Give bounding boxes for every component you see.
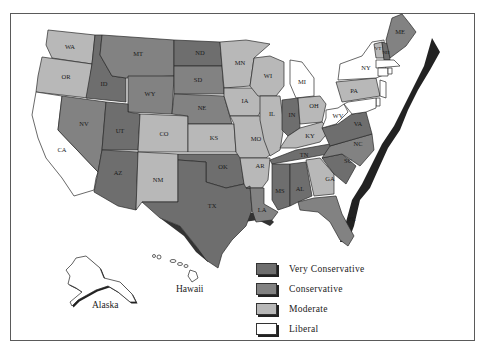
alaska-label: Alaska: [92, 300, 118, 310]
hawaii-big-island: [188, 270, 198, 282]
label-nh: NH: [382, 50, 390, 55]
legend-swatch-liberal: [256, 323, 277, 335]
label-ia: IA: [242, 97, 249, 104]
legend-item-very-conservative: Very Conservative: [256, 259, 365, 279]
label-co: CO: [159, 130, 168, 137]
label-pa: PA: [350, 87, 358, 94]
label-ms: MS: [275, 187, 285, 194]
state-az: [94, 150, 138, 210]
legend-label: Very Conservative: [289, 264, 365, 274]
label-wy: WY: [145, 90, 156, 97]
legend-label: Liberal: [289, 324, 319, 334]
label-ok: OK: [218, 163, 228, 170]
label-ga: GA: [325, 175, 335, 182]
us-map: WA OR CA ID NV MT WY UT AZ CO NM ND SD N…: [0, 0, 482, 352]
label-nv: NV: [79, 120, 89, 127]
label-ut: UT: [116, 127, 125, 134]
label-sd: SD: [194, 76, 203, 83]
legend-item-liberal: Liberal: [256, 319, 365, 339]
label-ar: AR: [255, 162, 265, 169]
label-nm: NM: [153, 176, 164, 183]
legend-label: Conservative: [289, 284, 343, 294]
label-nc: NC: [353, 140, 362, 147]
label-az: AZ: [114, 169, 123, 176]
label-mn: MN: [235, 59, 246, 66]
legend-item-moderate: Moderate: [256, 299, 365, 319]
state-ct: [378, 68, 388, 76]
label-il: IL: [269, 110, 275, 117]
hawaii-label: Hawaii: [176, 284, 203, 294]
legend-label: Moderate: [289, 304, 328, 314]
label-or: OR: [61, 73, 71, 80]
label-in: IN: [289, 111, 296, 118]
legend-swatch-moderate: [256, 303, 277, 315]
label-tn: TN: [300, 151, 309, 158]
state-ri: [388, 68, 392, 74]
legend-swatch-conservative: [256, 283, 277, 295]
label-wi: WI: [264, 72, 272, 79]
label-mo: MO: [251, 135, 262, 142]
label-mi: MI: [298, 78, 306, 85]
label-ks: KS: [210, 134, 219, 141]
label-al: AL: [296, 185, 305, 192]
label-sc: SC: [344, 157, 352, 164]
state-ma: [376, 60, 400, 68]
state-nj: [380, 80, 386, 98]
label-oh: OH: [309, 102, 319, 109]
hawaii-inset: [153, 255, 199, 283]
label-ca: CA: [57, 146, 66, 153]
label-ky: KY: [305, 132, 315, 139]
label-id: ID: [101, 80, 108, 87]
legend-item-conservative: Conservative: [256, 279, 365, 299]
label-la: LA: [258, 206, 267, 213]
legend-swatch-very-conservative: [256, 263, 277, 275]
label-vt: VT: [375, 46, 382, 51]
alaska-shape: [66, 256, 136, 306]
label-fl: FL: [348, 215, 356, 222]
legend: Very Conservative Conservative Moderate …: [256, 259, 365, 339]
state-oh: [298, 96, 326, 124]
label-ny: NY: [361, 64, 371, 71]
label-nd: ND: [195, 49, 205, 56]
label-wa: WA: [65, 43, 75, 50]
label-wv: WV: [333, 112, 344, 119]
state-fl: [298, 196, 354, 246]
state-de: [376, 98, 380, 106]
state-me: [386, 14, 416, 58]
label-ne: NE: [198, 104, 207, 111]
label-me: ME: [395, 28, 405, 35]
label-va: VA: [354, 120, 363, 127]
label-tx: TX: [208, 202, 217, 209]
label-mt: MT: [133, 50, 143, 57]
